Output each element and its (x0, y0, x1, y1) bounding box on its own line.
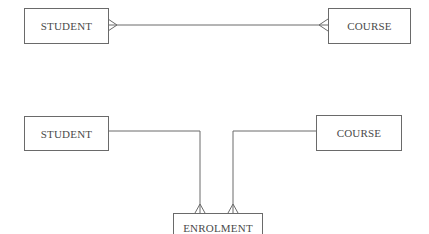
entity-label: STUDENT (41, 20, 93, 32)
course-enrolment-line (233, 131, 316, 213)
crows-foot-icon (108, 19, 117, 31)
entity-course-bottom: COURSE (316, 115, 402, 151)
entity-label: COURSE (337, 127, 382, 139)
student-enrolment-line (108, 131, 200, 213)
entity-label: ENROLMENT (183, 222, 253, 234)
crows-foot-icon (319, 19, 328, 31)
entity-enrolment: ENROLMENT (173, 213, 263, 234)
entity-course-top: COURSE (328, 8, 411, 44)
entity-student-bottom: STUDENT (24, 116, 109, 151)
entity-student-top: STUDENT (24, 8, 109, 44)
entity-label: COURSE (347, 20, 392, 32)
entity-label: STUDENT (41, 128, 93, 140)
